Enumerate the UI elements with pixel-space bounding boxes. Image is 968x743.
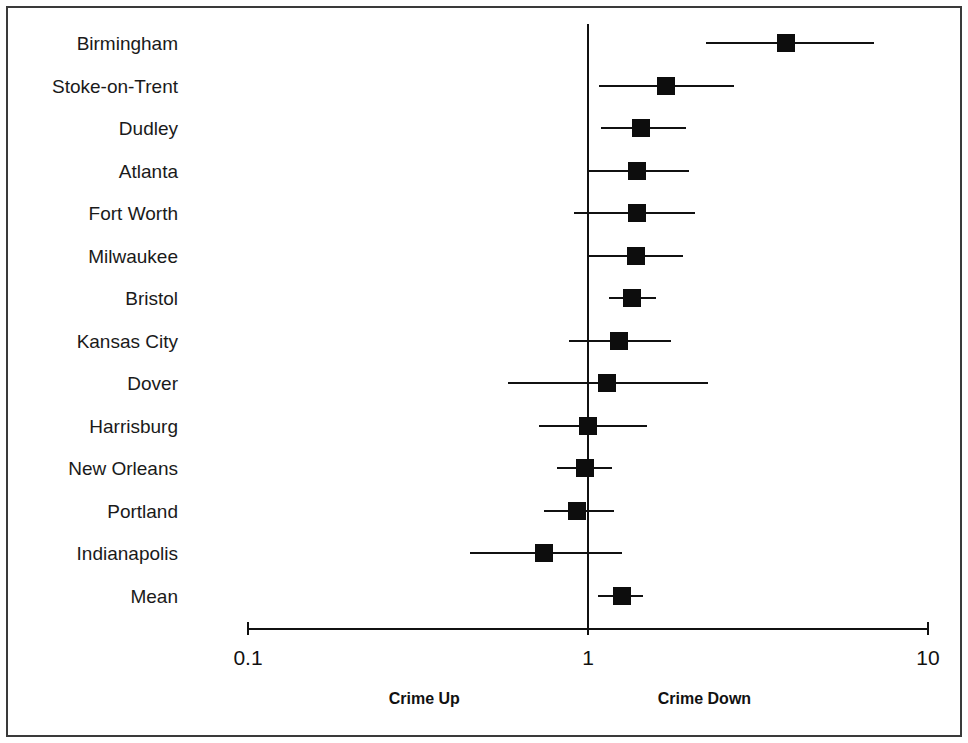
point-estimate-marker	[628, 162, 646, 180]
point-estimate-marker	[613, 587, 631, 605]
point-estimate-marker	[535, 544, 553, 562]
point-estimate-marker	[628, 204, 646, 222]
row-label: Birmingham	[77, 34, 178, 53]
row-label: Indianapolis	[77, 544, 178, 563]
point-estimate-marker	[777, 34, 795, 52]
row-label: New Orleans	[68, 459, 178, 478]
point-estimate-marker	[579, 417, 597, 435]
point-estimate-marker	[623, 289, 641, 307]
x-axis-tick-label: 0.1	[233, 646, 262, 670]
row-label: Atlanta	[119, 161, 178, 180]
row-label: Dudley	[119, 119, 178, 138]
point-estimate-marker	[610, 332, 628, 350]
row-label: Stoke-on-Trent	[52, 76, 178, 95]
point-estimate-marker	[657, 77, 675, 95]
forest-plot-figure: BirminghamStoke-on-TrentDudleyAtlantaFor…	[0, 0, 968, 743]
point-estimate-marker	[576, 459, 594, 477]
point-estimate-marker	[598, 374, 616, 392]
null-effect-reference-line	[587, 24, 589, 628]
point-estimate-marker	[627, 247, 645, 265]
point-estimate-marker	[568, 502, 586, 520]
row-label: Harrisburg	[89, 416, 178, 435]
row-label: Portland	[107, 501, 178, 520]
row-label: Bristol	[125, 289, 178, 308]
x-axis-tick-label: 10	[916, 646, 939, 670]
x-axis-tick-label: 1	[582, 646, 594, 670]
row-label: Dover	[127, 374, 178, 393]
x-axis-tick	[247, 622, 249, 635]
point-estimate-marker	[632, 119, 650, 137]
x-axis-tick	[927, 622, 929, 635]
row-label: Kansas City	[77, 331, 178, 350]
x-axis-tick	[587, 622, 589, 635]
row-label: Mean	[130, 586, 178, 605]
row-label: Fort Worth	[89, 204, 178, 223]
crime-down-label: Crime Down	[658, 690, 751, 708]
row-label: Milwaukee	[88, 246, 178, 265]
plot-area: BirminghamStoke-on-TrentDudleyAtlantaFor…	[0, 0, 968, 743]
crime-up-label: Crime Up	[389, 690, 460, 708]
